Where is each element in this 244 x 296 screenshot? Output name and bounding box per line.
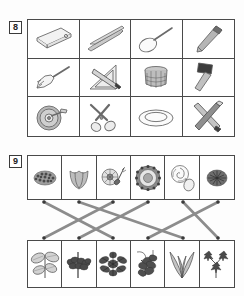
cell-flower-cluster[interactable] (28, 156, 62, 199)
cell-scissors[interactable] (80, 97, 132, 136)
cell-rose-flower[interactable] (165, 156, 199, 199)
cell-basket[interactable] (131, 59, 183, 98)
cell-spoon[interactable] (131, 20, 183, 59)
exercise-number-9: 9 (9, 155, 22, 168)
cell-hedge-plant[interactable] (62, 241, 96, 287)
cell-plate[interactable] (131, 97, 183, 136)
cell-fork[interactable] (28, 59, 80, 98)
exercise-9-plant-row (27, 240, 235, 288)
cell-daisy-flower[interactable] (131, 156, 165, 199)
cell-crossed-chisels[interactable] (183, 97, 235, 136)
cell-set-square[interactable] (80, 59, 132, 98)
cell-mallet[interactable] (183, 59, 235, 98)
exercise-9-flower-row (27, 155, 235, 200)
cell-pollinated-flower[interactable] (97, 156, 131, 199)
cell-pen[interactable] (183, 20, 235, 59)
cell-chopsticks[interactable] (80, 20, 132, 59)
cell-maple-leaf-plant[interactable] (200, 241, 234, 287)
cell-star-leaf-plant[interactable] (97, 241, 131, 287)
cell-cutting-board[interactable] (28, 20, 80, 59)
exercise-8-grid (27, 19, 235, 137)
cell-thistle-flower[interactable] (200, 156, 234, 199)
matching-connectors (27, 200, 235, 240)
cell-pizza-cutter[interactable] (28, 97, 80, 136)
cell-grass-plant[interactable] (165, 241, 199, 287)
cell-broad-leaf-plant[interactable] (28, 241, 62, 287)
worksheet-page: 8 (0, 0, 244, 296)
cell-tulip-flower[interactable] (62, 156, 96, 199)
cell-vine-plant[interactable] (131, 241, 165, 287)
exercise-number-8: 8 (9, 21, 22, 34)
